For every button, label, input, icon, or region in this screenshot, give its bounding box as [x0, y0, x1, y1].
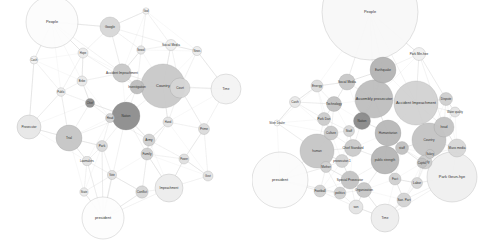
- graph-node[interactable]: Hand: [163, 117, 173, 127]
- graph-node[interactable]: Cash: [290, 97, 301, 108]
- graph-edge-mesh: [122, 11, 146, 73]
- graph-node[interactable]: Impeachment: [155, 174, 183, 202]
- node-label: Park Dan: [317, 117, 330, 121]
- graph-node[interactable]: Hope: [78, 48, 88, 58]
- graph-edge-mesh: [34, 53, 83, 60]
- graph-node[interactable]: Cash: [30, 56, 38, 64]
- graph-node[interactable]: People: [26, 0, 78, 48]
- node-label: Earthquake: [375, 68, 391, 72]
- node-label: Energy: [312, 84, 322, 88]
- graph-node[interactable]: Assembly prosecutor: [355, 80, 393, 118]
- node-label: Impeachment: [160, 186, 179, 190]
- graph-node[interactable]: son: [349, 200, 363, 214]
- node-label: Public: [57, 90, 65, 94]
- graph-node[interactable]: News: [192, 46, 201, 55]
- network-svg-left: PeopleCountrypresidentTimeNationImpeachm…: [0, 0, 252, 242]
- node-label: Mass media: [449, 146, 466, 150]
- graph-node[interactable]: Vote: [107, 170, 116, 179]
- graph-node[interactable]: Staff: [344, 126, 355, 137]
- graph-node[interactable]: Culture: [324, 126, 338, 140]
- graph-node[interactable]: Lawmakers: [80, 156, 95, 166]
- graph-node[interactable]: Govt: [203, 171, 213, 181]
- graph-node[interactable]: Social Media: [162, 40, 180, 51]
- network-graph-figure: PeopleCountrypresidentTimeNationImpeachm…: [0, 0, 504, 242]
- node-label: Accident Impeachment: [396, 100, 437, 105]
- graph-node[interactable]: Accident Impeachment: [394, 81, 438, 125]
- node-label: Prime: [200, 127, 208, 131]
- node-label: Park Geun-hye: [439, 174, 465, 179]
- graph-node[interactable]: Chief Standard: [343, 140, 364, 157]
- graph-node[interactable]: Public: [57, 88, 66, 97]
- graph-node[interactable]: president: [82, 197, 124, 239]
- graph-node[interactable]: Chief: [85, 98, 94, 107]
- graph-node[interactable]: Dispute: [440, 93, 453, 106]
- graph-node[interactable]: State: [80, 188, 88, 196]
- graph-node[interactable]: Football: [314, 185, 326, 197]
- graph-node[interactable]: staff: [396, 142, 409, 155]
- graph-node[interactable]: politics: [334, 187, 346, 199]
- node-label: staff: [399, 146, 405, 150]
- graph-node[interactable]: Family: [141, 148, 153, 160]
- graph-node[interactable]: God: [143, 8, 149, 14]
- graph-node[interactable]: Google: [100, 17, 120, 37]
- graph-node[interactable]: Sewol: [137, 46, 145, 54]
- graph-node[interactable]: Social Media: [338, 74, 356, 90]
- graph-node[interactable]: Salary: [426, 150, 435, 159]
- graph-node[interactable]: Court: [170, 78, 190, 98]
- node-label: Govt: [205, 174, 211, 178]
- graph-node[interactable]: Power: [179, 154, 189, 164]
- graph-node[interactable]: Mass media: [448, 139, 466, 157]
- graph-node[interactable]: Park Geun-hye: [427, 152, 477, 202]
- graph-node[interactable]: Silver Dealer: [269, 120, 285, 126]
- graph-node[interactable]: Park Dan: [317, 113, 330, 126]
- node-label: Labor: [413, 181, 421, 185]
- node-label: Family: [142, 152, 152, 156]
- graph-edge-mesh: [84, 175, 112, 192]
- graph-node[interactable]: Humanitarian: [375, 120, 401, 146]
- graph-node[interactable]: Sae. Part: [397, 193, 411, 207]
- graph-node[interactable]: Accident Impeachment: [106, 64, 138, 82]
- node-label: Humanitarian: [379, 131, 398, 135]
- graph-node[interactable]: Energy: [311, 80, 323, 92]
- graph-node[interactable]: prosecutor-1: [333, 155, 351, 168]
- node-label: public strength: [375, 158, 396, 162]
- graph-node[interactable]: Bribe: [77, 76, 87, 86]
- node-label: Staff: [346, 129, 353, 133]
- graph-node[interactable]: Trial: [56, 125, 82, 151]
- graph-node[interactable]: Capital: [417, 158, 427, 168]
- graph-node[interactable]: Technology: [326, 97, 342, 112]
- graph-node[interactable]: Army: [143, 134, 155, 146]
- graph-node[interactable]: Earthquake: [370, 57, 396, 83]
- graph-node[interactable]: Park: [97, 141, 108, 152]
- graph-node[interactable]: Time: [371, 204, 399, 232]
- graph-node[interactable]: Head: [106, 114, 115, 123]
- network-svg-right: PeoplepresidentPark Geun-hyeAccident Imp…: [252, 0, 504, 242]
- node-label: Silver Dealer: [269, 121, 285, 125]
- graph-node[interactable]: Nation: [112, 102, 140, 130]
- graph-edge-mesh: [146, 11, 171, 45]
- network-panel-right: PeoplepresidentPark Geun-hyeAccident Imp…: [252, 0, 504, 242]
- graph-node[interactable]: Water quality: [447, 107, 463, 117]
- graph-node[interactable]: Nation: [354, 113, 371, 130]
- graph-node[interactable]: Labor: [412, 178, 423, 189]
- graph-node[interactable]: Time: [211, 74, 241, 104]
- graph-edge-mesh: [141, 11, 146, 50]
- node-label: Hope: [80, 51, 87, 55]
- node-label: Hand: [165, 120, 172, 124]
- graph-node[interactable]: Park Min-hee: [410, 48, 429, 61]
- graph-node[interactable]: public strength: [371, 146, 399, 174]
- graph-node[interactable]: Conflict: [136, 186, 148, 198]
- node-label: Chief: [87, 101, 94, 105]
- graph-node[interactable]: People: [322, 0, 418, 60]
- graph-node[interactable]: Fact: [389, 173, 401, 185]
- node-label: Water quality: [447, 110, 463, 114]
- graph-node[interactable]: Mother: [321, 162, 332, 173]
- node-label: Power: [180, 157, 188, 161]
- graph-node[interactable]: Prosecutor: [17, 115, 41, 139]
- node-label: Bribe: [79, 79, 86, 83]
- graph-node[interactable]: Prime: [199, 124, 210, 135]
- graph-node[interactable]: head: [434, 117, 454, 137]
- node-label: Mother: [321, 165, 331, 169]
- graph-node[interactable]: Organization: [355, 183, 373, 198]
- graph-node[interactable]: president: [252, 152, 308, 208]
